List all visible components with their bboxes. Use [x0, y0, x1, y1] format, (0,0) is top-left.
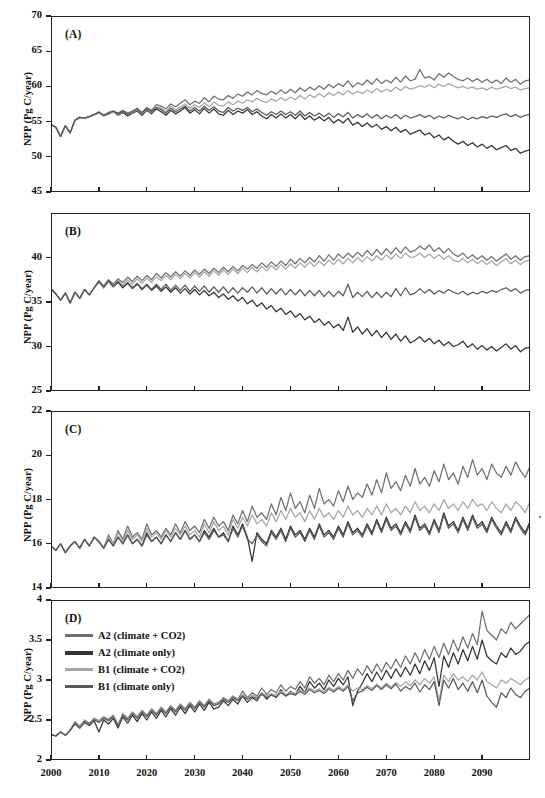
scan-artifact-dot — [539, 516, 541, 518]
legend-label: A2 (climate + CO2) — [98, 630, 185, 641]
legend: A2 (climate + CO2)A2 (climate only)B1 (c… — [65, 627, 185, 695]
legend-item: A2 (climate only) — [65, 644, 185, 661]
x-tick-label: 2030 — [170, 767, 220, 778]
legend-label: B1 (climate + CO2) — [98, 664, 185, 675]
legend-item: B1 (climate + CO2) — [65, 661, 185, 678]
legend-item: A2 (climate + CO2) — [65, 627, 185, 644]
x-tick-label: 2060 — [313, 767, 363, 778]
x-tick-label: 2000 — [26, 767, 76, 778]
x-tick-label: 2010 — [74, 767, 124, 778]
x-tick-label: 2020 — [122, 767, 172, 778]
x-tick-label: 2040 — [218, 767, 268, 778]
legend-swatch-line-icon — [65, 651, 93, 655]
legend-label: A2 (climate only) — [98, 647, 175, 658]
x-tick-label: 2050 — [266, 767, 316, 778]
x-tick-label: 2080 — [409, 767, 459, 778]
figure-npp-scenarios: (A)NPP (Pg C/year)455055606570(B)NPP (Pg… — [0, 0, 545, 798]
x-tick-label: 2070 — [361, 767, 411, 778]
legend-swatch-line-icon — [65, 668, 93, 671]
legend-item: B1 (climate only) — [65, 678, 185, 695]
legend-swatch-line-icon — [65, 685, 93, 688]
x-tick-label: 2090 — [457, 767, 507, 778]
legend-label: B1 (climate only) — [98, 681, 174, 692]
legend-swatch-line-icon — [65, 634, 93, 637]
